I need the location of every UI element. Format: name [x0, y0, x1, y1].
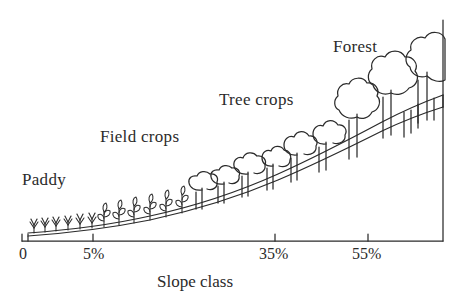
tree-crop	[313, 121, 346, 172]
x-axis-tick-label-0: 0	[19, 245, 27, 263]
paddy-seedling	[52, 217, 60, 231]
ground-profile-line	[28, 95, 443, 233]
zone-label-forest: Forest	[333, 37, 377, 57]
tree-crop	[211, 166, 240, 203]
x-axis-title: Slope class	[157, 272, 233, 292]
forest-tree	[406, 32, 445, 123]
zone-label-tree-crops: Tree crops	[219, 90, 294, 110]
diagram-canvas	[0, 0, 451, 307]
tree-crop	[262, 146, 291, 190]
paddy-seedling	[76, 214, 84, 229]
x-axis-tick-label-55: 55%	[352, 245, 381, 263]
x-axis-tick-label-5: 5%	[83, 245, 104, 263]
zone-label-field-crops: Field crops	[100, 127, 179, 147]
field-crop-plant	[144, 194, 156, 220]
forest-tree	[335, 78, 380, 159]
zone-label-paddy: Paddy	[22, 170, 66, 190]
paddy-seedling	[41, 218, 49, 232]
x-axis-tick-label-35: 35%	[259, 245, 288, 263]
tree-crop	[284, 132, 317, 182]
slope-land-use-diagram: Paddy Field crops Tree crops Forest 0 5%…	[0, 0, 451, 307]
paddy-seedling	[30, 219, 38, 233]
paddy-seedling	[64, 216, 72, 230]
tree-crop-group	[189, 121, 346, 209]
